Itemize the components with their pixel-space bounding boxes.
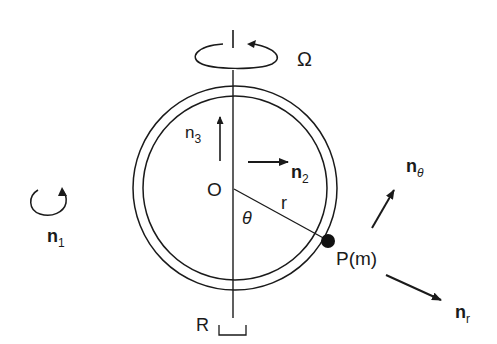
n1-label: n1 [47, 226, 65, 250]
point-label: P(m) [336, 248, 377, 269]
n1-rotation-arrow-icon [31, 187, 67, 215]
n-theta-label: nθ [406, 156, 424, 180]
n3-label: n3 [185, 123, 201, 146]
omega-label: Ω [297, 48, 312, 70]
n-r-label: nr [455, 302, 470, 326]
hoop [133, 86, 337, 290]
n-r-arrow-icon [386, 275, 441, 300]
support-label: R [196, 315, 209, 335]
support-bracket [219, 325, 246, 335]
hoop-bead-diagram: Ω n3 n2 O r θ P(m) nθ nr n1 R [0, 0, 497, 344]
theta-label: θ [242, 208, 252, 228]
origin-label: O [207, 179, 222, 200]
omega-rotation-arrow-icon [195, 40, 277, 68]
radius-label: r [281, 193, 287, 213]
n2-label: n2 [291, 162, 309, 186]
n-theta-arrow-icon [372, 190, 394, 228]
point-mass-bead [321, 234, 335, 248]
